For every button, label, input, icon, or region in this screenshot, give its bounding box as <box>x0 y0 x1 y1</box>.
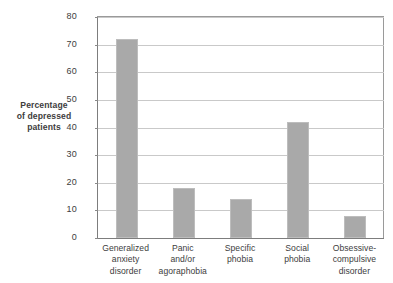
y-tick-mark <box>95 100 99 101</box>
y-tick-label: 0 <box>55 232 77 242</box>
y-tick-mark <box>95 128 99 129</box>
y-tick-mark <box>95 155 99 156</box>
y-tick-mark <box>95 45 99 46</box>
y-tick-label: 80 <box>55 11 77 21</box>
y-tick-label: 30 <box>55 149 77 159</box>
bar <box>287 122 309 238</box>
y-tick-label: 60 <box>55 66 77 76</box>
gridline <box>98 45 384 46</box>
gridline <box>98 183 384 184</box>
x-tick-label-line: compulsive <box>320 254 389 265</box>
y-tick-mark <box>95 17 99 18</box>
y-tick-label: 20 <box>55 177 77 187</box>
x-tick-label-line: disorder <box>320 266 389 277</box>
y-tick-mark <box>95 238 99 239</box>
bar <box>116 39 138 238</box>
x-tick-label: Obsessive-compulsivedisorder <box>320 243 389 277</box>
y-tick-label: 40 <box>55 122 77 132</box>
x-tick-label-line: agoraphobia <box>148 266 217 277</box>
y-tick-mark <box>95 210 99 211</box>
y-tick-label: 10 <box>55 204 77 214</box>
bar <box>173 188 195 238</box>
gridline <box>98 128 384 129</box>
gridline <box>98 155 384 156</box>
y-tick-mark <box>95 183 99 184</box>
bar <box>344 216 366 238</box>
gridline <box>98 17 384 18</box>
y-tick-label: 70 <box>55 39 77 49</box>
x-tick-label-line: Obsessive- <box>320 243 389 254</box>
gridline <box>98 72 384 73</box>
y-tick-label: 50 <box>55 94 77 104</box>
y-tick-mark <box>95 72 99 73</box>
gridline <box>98 100 384 101</box>
bar-chart-figure: Percentage of depressed patients 0102030… <box>0 0 393 283</box>
plot-area <box>97 17 384 239</box>
bar <box>230 199 252 238</box>
